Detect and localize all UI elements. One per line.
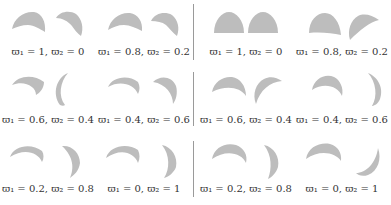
shape-pair-cell: ϖ₁ = 0.4, ϖ₂ = 0.6 bbox=[294, 68, 390, 136]
crescent-shape-pair bbox=[96, 68, 192, 114]
shape-pair-cell: ϖ₁ = 0.8, ϖ₂ = 0.2 bbox=[96, 0, 192, 68]
weight-caption: ϖ₁ = 0.4, ϖ₂ = 0.6 bbox=[294, 114, 390, 125]
shape-pair-cell: ϖ₁ = 0.6, ϖ₂ = 0.4 bbox=[0, 68, 96, 136]
weight-caption: ϖ₁ = 0.8, ϖ₂ = 0.2 bbox=[96, 46, 192, 57]
weight-caption: ϖ₁ = 0, ϖ₂ = 1 bbox=[294, 183, 390, 194]
shape-pair-cell: ϖ₁ = 0, ϖ₂ = 1 bbox=[96, 137, 192, 205]
panel-divider bbox=[193, 141, 194, 197]
left-panel: ϖ₁ = 1, ϖ₂ = 0 ϖ₁ = 0.8, ϖ₂ = 0.2 ϖ₁ = 0… bbox=[0, 0, 193, 205]
weight-caption: ϖ₁ = 0.2, ϖ₂ = 0.8 bbox=[198, 183, 294, 194]
panel-divider bbox=[193, 72, 194, 126]
shape-pair-cell: ϖ₁ = 1, ϖ₂ = 0 bbox=[198, 0, 294, 68]
weight-caption: ϖ₁ = 1, ϖ₂ = 0 bbox=[198, 46, 294, 57]
crescent-shape-pair bbox=[294, 137, 390, 183]
crescent-shape-pair bbox=[96, 137, 192, 183]
blob-shape-pair bbox=[0, 0, 96, 46]
shape-pair-cell: ϖ₁ = 0.2, ϖ₂ = 0.8 bbox=[0, 137, 96, 205]
weight-caption: ϖ₁ = 1, ϖ₂ = 0 bbox=[0, 46, 96, 57]
crescent-shape-pair bbox=[198, 68, 294, 114]
shape-pair-cell: ϖ₁ = 1, ϖ₂ = 0 bbox=[0, 0, 96, 68]
shape-pair-cell: ϖ₁ = 0.8, ϖ₂ = 0.2 bbox=[294, 0, 390, 68]
weight-caption: ϖ₁ = 0.6, ϖ₂ = 0.4 bbox=[0, 114, 96, 125]
semicircle-shape-pair bbox=[294, 0, 390, 46]
weight-caption: ϖ₁ = 0.2, ϖ₂ = 0.8 bbox=[0, 183, 96, 194]
panel-divider bbox=[193, 4, 194, 60]
crescent-shape-pair bbox=[294, 68, 390, 114]
shape-pair-cell: ϖ₁ = 0.2, ϖ₂ = 0.8 bbox=[198, 137, 294, 205]
blob-shape-pair bbox=[96, 0, 192, 46]
crescent-shape-pair bbox=[0, 137, 96, 183]
weight-caption: ϖ₁ = 0.6, ϖ₂ = 0.4 bbox=[198, 114, 294, 125]
weight-caption: ϖ₁ = 0.8, ϖ₂ = 0.2 bbox=[294, 46, 390, 57]
weight-caption: ϖ₁ = 0, ϖ₂ = 1 bbox=[96, 183, 192, 194]
semicircle-shape-pair bbox=[198, 0, 294, 46]
shape-pair-cell: ϖ₁ = 0, ϖ₂ = 1 bbox=[294, 137, 390, 205]
right-panel: ϖ₁ = 1, ϖ₂ = 0 ϖ₁ = 0.8, ϖ₂ = 0.2 ϖ₁ = 0… bbox=[198, 0, 391, 205]
shape-pair-cell: ϖ₁ = 0.6, ϖ₂ = 0.4 bbox=[198, 68, 294, 136]
crescent-shape-pair bbox=[0, 68, 96, 114]
weight-caption: ϖ₁ = 0.4, ϖ₂ = 0.6 bbox=[96, 114, 192, 125]
shape-pair-cell: ϖ₁ = 0.4, ϖ₂ = 0.6 bbox=[96, 68, 192, 136]
crescent-shape-pair bbox=[198, 137, 294, 183]
